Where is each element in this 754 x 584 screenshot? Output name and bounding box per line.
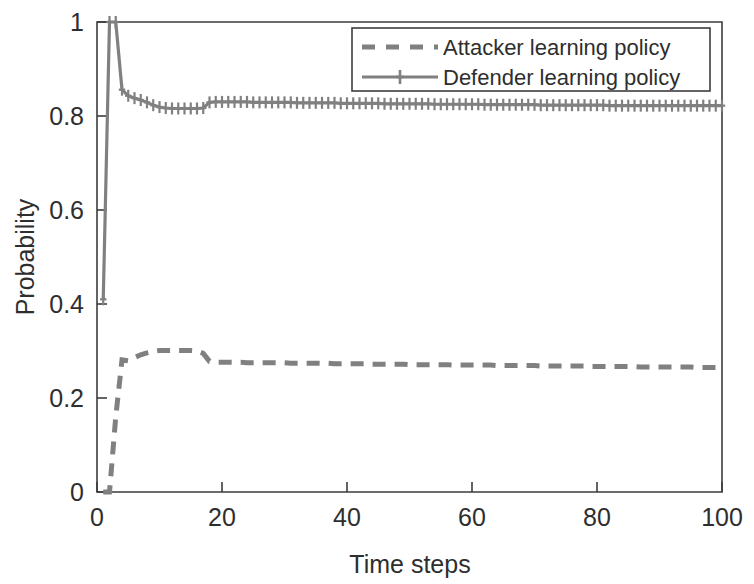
axes-box — [97, 22, 722, 492]
y-tick-label: 1 — [70, 8, 84, 36]
y-axis-ticks: 00.20.40.60.81 — [49, 8, 107, 506]
x-tick-label: 40 — [333, 503, 361, 531]
x-tick-label: 20 — [208, 503, 236, 531]
chart-figure: 00.20.40.60.81 020406080100 Time steps P… — [0, 0, 754, 584]
line-chart-svg: 00.20.40.60.81 020406080100 Time steps P… — [0, 0, 754, 584]
x-axis-title: Time steps — [349, 550, 470, 578]
legend-label: Attacker learning policy — [443, 35, 670, 60]
y-axis-title: Probability — [11, 198, 39, 315]
x-tick-label: 0 — [90, 503, 104, 531]
x-tick-label: 100 — [701, 503, 743, 531]
y-tick-label: 0.4 — [49, 290, 84, 318]
y-tick-label: 0 — [70, 478, 84, 506]
series-line — [103, 351, 722, 492]
y-tick-label: 0.8 — [49, 102, 84, 130]
chart-legend: Attacker learning policyDefender learnin… — [352, 28, 710, 91]
legend-label: Defender learning policy — [443, 65, 680, 90]
x-tick-label: 60 — [458, 503, 486, 531]
plot-frame — [97, 22, 722, 492]
x-axis-ticks: 020406080100 — [90, 482, 743, 531]
y-tick-label: 0.2 — [49, 384, 84, 412]
y-tick-label: 0.6 — [49, 196, 84, 224]
series-attacker — [103, 351, 722, 492]
x-tick-label: 80 — [583, 503, 611, 531]
